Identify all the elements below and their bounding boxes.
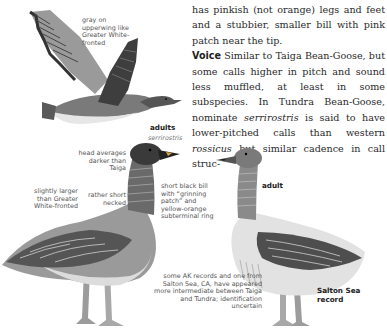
subspecies-name: serrirostris (244, 112, 299, 123)
caption-salton-sea-record: Salton Sea record (317, 287, 361, 304)
label-head-darker: head averages darker than Taiga (78, 150, 126, 173)
caption-subspecies: serrirostris (148, 134, 182, 142)
label-short-necked: rather short necked (84, 192, 126, 207)
label-slightly-larger: slightly larger than Greater White-front… (28, 188, 78, 211)
description-paragraph: has pinkish (not orange) legs and feet a… (192, 2, 385, 48)
label-upperwing: gray on upperwing like Greater White-fro… (82, 17, 142, 47)
caption-adult: adult (262, 182, 283, 191)
label-ak-records: some AK records and one from Salton Sea,… (150, 273, 262, 311)
caption-adults: adults (150, 124, 175, 133)
voice-heading: Voice (192, 50, 221, 61)
